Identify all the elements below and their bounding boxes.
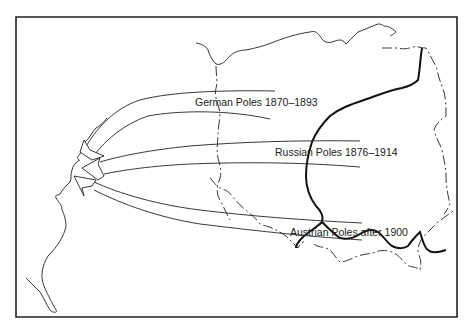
flow-austrian-arrowhead xyxy=(74,176,96,196)
map-frame xyxy=(16,17,457,152)
flow-german-inner xyxy=(95,112,270,154)
boundary-south xyxy=(314,210,455,270)
flow-austrian-upper xyxy=(90,180,362,223)
label-austrian-poles: Austrian Poles after 1900 xyxy=(290,226,408,238)
coastline-west xyxy=(26,118,107,312)
flow-german-arrowhead xyxy=(80,140,104,160)
coastline-north xyxy=(196,24,396,64)
flow-russian-arrowhead xyxy=(82,158,104,180)
boundary-east xyxy=(382,46,450,214)
migration-map: German Poles 1870–1893 Russian Poles 187… xyxy=(0,0,475,330)
label-german-poles: German Poles 1870–1893 xyxy=(195,96,318,108)
map-border-frame xyxy=(16,17,457,317)
label-russian-poles: Russian Poles 1876–1914 xyxy=(275,146,398,158)
flow-russian-lower xyxy=(104,163,360,174)
